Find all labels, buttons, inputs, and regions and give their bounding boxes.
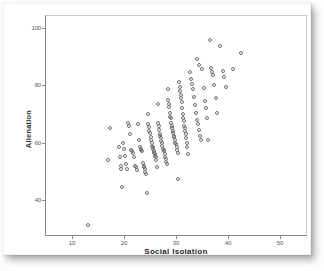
x-tick-label: 50 bbox=[277, 240, 283, 246]
scatter-point bbox=[128, 132, 132, 136]
figure-card: Alienation 406080100 1020304050 Social I… bbox=[3, 3, 311, 255]
y-tick-mark bbox=[42, 85, 46, 86]
scatter-point bbox=[167, 105, 171, 109]
scatter-point bbox=[194, 111, 198, 115]
scatter-point bbox=[215, 111, 219, 115]
scatter-point bbox=[135, 168, 139, 172]
scatter-point bbox=[137, 138, 141, 142]
scatter-point bbox=[154, 158, 158, 162]
scatter-point bbox=[212, 83, 216, 87]
scatter-point bbox=[180, 100, 184, 104]
scatter-point bbox=[145, 191, 149, 195]
scatter-point bbox=[166, 98, 170, 102]
scatter-point bbox=[239, 51, 243, 55]
scatter-point bbox=[189, 77, 193, 81]
scatter-point bbox=[178, 85, 182, 89]
scatter-point bbox=[166, 87, 170, 91]
scatter-point bbox=[156, 102, 160, 106]
scatter-point bbox=[177, 80, 181, 84]
scatter-point bbox=[203, 99, 207, 103]
x-tick-mark bbox=[280, 235, 281, 239]
scatter-points-layer bbox=[46, 16, 306, 235]
scatter-point bbox=[117, 145, 121, 149]
scatter-point bbox=[193, 103, 197, 107]
scatter-point bbox=[224, 85, 228, 89]
scatter-point bbox=[206, 138, 210, 142]
scatter-point bbox=[125, 167, 129, 171]
scatter-point bbox=[185, 145, 189, 149]
plot-area: 406080100 1020304050 bbox=[45, 15, 307, 236]
x-tick-mark bbox=[176, 235, 177, 239]
scatter-point bbox=[165, 162, 169, 166]
x-tick-label: 20 bbox=[121, 240, 127, 246]
y-axis-title: Alienation bbox=[24, 110, 33, 148]
scatter-point bbox=[222, 75, 226, 79]
scatter-point bbox=[144, 172, 148, 176]
scatter-point bbox=[211, 73, 215, 77]
scatter-point bbox=[218, 44, 222, 48]
scatter-point bbox=[140, 149, 144, 153]
x-tick-label: 30 bbox=[173, 240, 179, 246]
scatter-point bbox=[168, 111, 172, 115]
scatter-point bbox=[136, 122, 140, 126]
scatter-point bbox=[205, 116, 209, 120]
scatter-point bbox=[186, 152, 190, 156]
x-tick-label: 40 bbox=[225, 240, 231, 246]
scatter-point bbox=[86, 223, 90, 227]
scatter-point bbox=[200, 67, 204, 71]
scatter-point bbox=[199, 138, 203, 142]
scatter-point bbox=[197, 128, 201, 132]
scatter-point bbox=[132, 155, 136, 159]
x-tick-label: 10 bbox=[69, 240, 75, 246]
scatter-point bbox=[122, 147, 126, 151]
scatter-point bbox=[120, 185, 124, 189]
x-tick-mark bbox=[228, 235, 229, 239]
scatter-point bbox=[146, 112, 150, 116]
scatter-point bbox=[176, 177, 180, 181]
x-tick-mark bbox=[124, 235, 125, 239]
scatter-point bbox=[208, 38, 212, 42]
y-tick-label: 100 bbox=[32, 25, 41, 31]
scatter-point bbox=[204, 106, 208, 110]
x-axis-title: Social Isolation bbox=[45, 247, 307, 256]
scatter-point bbox=[118, 155, 122, 159]
y-tick-label: 80 bbox=[35, 82, 41, 88]
scatter-point bbox=[169, 116, 173, 120]
scatter-point bbox=[190, 82, 194, 86]
scatter-point bbox=[231, 67, 235, 71]
scatter-point bbox=[192, 95, 196, 99]
scatter-point bbox=[121, 141, 125, 145]
scatter-point bbox=[184, 136, 188, 140]
scatter-point bbox=[157, 124, 161, 128]
scatter-point bbox=[195, 57, 199, 61]
y-tick-mark bbox=[42, 28, 46, 29]
scatter-point bbox=[155, 165, 159, 169]
x-tick-mark bbox=[72, 235, 73, 239]
scatter-point bbox=[119, 167, 123, 171]
scatter-point bbox=[221, 69, 225, 73]
scatter-point bbox=[191, 87, 195, 91]
scatter-point bbox=[123, 154, 127, 158]
scatter-point bbox=[198, 134, 202, 138]
scatter-point bbox=[124, 162, 128, 166]
scatter-point bbox=[182, 119, 186, 123]
scatter-point bbox=[176, 151, 180, 155]
scatter-point bbox=[214, 96, 218, 100]
scatter-point bbox=[196, 122, 200, 126]
scatter-point bbox=[202, 86, 206, 90]
y-tick-label: 40 bbox=[35, 197, 41, 203]
y-tick-label: 60 bbox=[35, 140, 41, 146]
page-background: Alienation 406080100 1020304050 Social I… bbox=[0, 0, 324, 271]
y-tick-mark bbox=[42, 200, 46, 201]
y-tick-mark bbox=[42, 143, 46, 144]
scatter-point bbox=[127, 124, 131, 128]
scatter-point bbox=[188, 70, 192, 74]
scatter-point bbox=[180, 106, 184, 110]
scatter-point bbox=[108, 126, 112, 130]
scatter-point bbox=[106, 158, 110, 162]
